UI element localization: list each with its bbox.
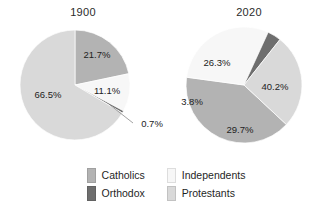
pie-svg-1900: 21.7% 11.1% 0.7% 66.5% xyxy=(0,22,166,158)
slice-value-protestants: 66.5% xyxy=(35,89,62,100)
legend-item-orthodox[interactable]: Orthodox xyxy=(87,185,145,202)
legend-item-catholics[interactable]: Catholics xyxy=(87,167,145,184)
slice-value-catholics: 21.7% xyxy=(84,49,111,60)
legend-grid: Catholics Independents Orthodox Protesta… xyxy=(87,162,246,202)
pie-wrap-2020: 40.2% 29.7% 3.8% 26.3% xyxy=(166,22,332,158)
legend-label-catholics: Catholics xyxy=(102,169,145,182)
pie-wrap-1900: 21.7% 11.1% 0.7% 66.5% xyxy=(0,22,166,158)
legend-label-independents: Independents xyxy=(182,169,246,182)
slice-value-protestants: 26.3% xyxy=(204,57,231,68)
chart-panel-1900: 1900 21.7% xyxy=(0,0,166,160)
legend-label-orthodox: Orthodox xyxy=(102,187,145,200)
legend-swatch-catholics xyxy=(87,168,96,183)
chart-title-1900: 1900 xyxy=(0,6,166,18)
pie-chart-figure: 1900 21.7% xyxy=(0,0,332,215)
pie-svg-2020: 40.2% 29.7% 3.8% 26.3% xyxy=(166,22,332,158)
legend-swatch-independents xyxy=(167,168,176,183)
slice-value-orthodox: 0.7% xyxy=(141,118,163,129)
chart-legend: Catholics Independents Orthodox Protesta… xyxy=(0,162,332,215)
legend-item-protestants[interactable]: Protestants xyxy=(167,185,246,202)
slice-value-orthodox: 3.8% xyxy=(181,96,203,107)
charts-row: 1900 21.7% xyxy=(0,0,332,160)
slice-value-independents: 29.7% xyxy=(227,124,254,135)
slice-value-independents: 11.1% xyxy=(94,85,121,96)
legend-item-independents[interactable]: Independents xyxy=(167,167,246,184)
chart-title-2020: 2020 xyxy=(166,6,332,18)
slice-value-catholics: 40.2% xyxy=(262,81,289,92)
legend-label-protestants: Protestants xyxy=(182,187,235,200)
legend-swatch-protestants xyxy=(167,186,176,201)
chart-panel-2020: 2020 40.2% 29.7% xyxy=(166,0,332,160)
legend-swatch-orthodox xyxy=(87,186,96,201)
